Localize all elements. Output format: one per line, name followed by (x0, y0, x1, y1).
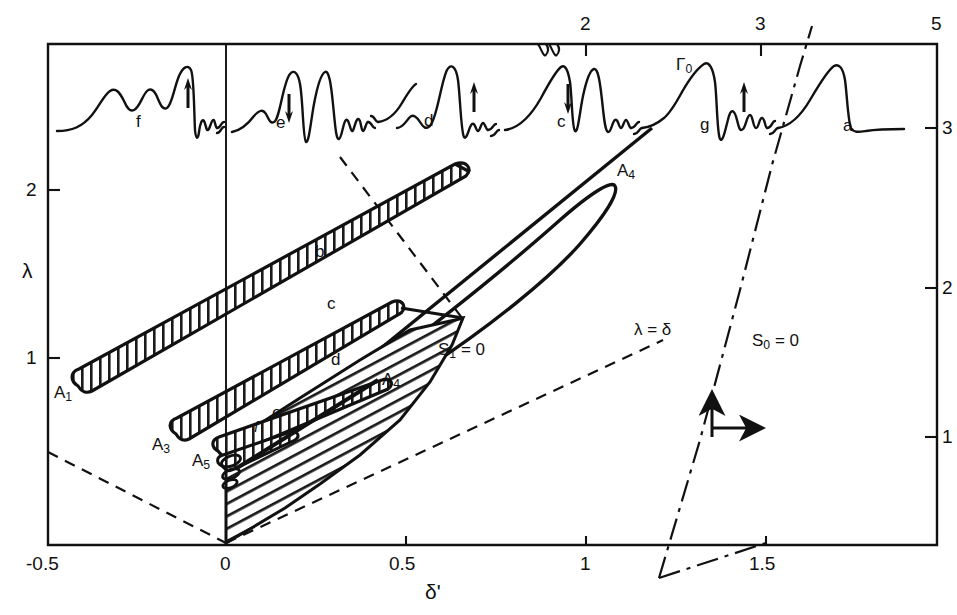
y-left-tick-label-1: 1 (26, 348, 37, 367)
axis-ticks (48, 44, 937, 545)
x-top-tick-label-5: 5 (931, 14, 942, 33)
inset-label-f: f (136, 113, 141, 130)
x-top-tick-label-3: 3 (755, 14, 766, 33)
axis-break-marker-top (538, 44, 559, 56)
inset-d-waveform (397, 66, 499, 137)
inset-e-waveform (232, 72, 416, 142)
curve-label-b: b (315, 243, 324, 260)
S0-direction-arrows (711, 404, 751, 437)
point-label-A4-upper: A4 (617, 162, 635, 182)
annotation-lambda-equals-delta: λ = δ (634, 321, 671, 338)
inset-f-arrow-up (184, 78, 192, 108)
annotation-S1-equals-0: S1 = 0 (438, 341, 485, 361)
inset-c-waveform (505, 66, 682, 134)
curve-label-f: f (254, 419, 258, 434)
y-right-tick-label-2: 2 (942, 278, 953, 297)
x-tick-label-1: 1 (580, 554, 591, 573)
point-label-A3: A3 (152, 436, 170, 456)
inset-g-waveform (682, 63, 778, 140)
inset-label-g: g (700, 116, 709, 133)
x-tick-label-0.5: 0.5 (389, 554, 415, 573)
point-label-A5: A5 (192, 452, 210, 472)
x-axis-title: δ' (425, 581, 441, 602)
inset-g-arrow-up (740, 82, 748, 112)
plot-frame (48, 44, 937, 545)
y-right-tick-label-1: 1 (942, 427, 953, 446)
inset-label-d: d (424, 112, 433, 129)
inset-label-c: c (557, 113, 566, 130)
x-tick-label-1.5: 1.5 (749, 554, 775, 573)
gamma-0-label: Γ0 (676, 56, 692, 76)
inset-label-a: a (843, 117, 852, 134)
curve-label-c: c (327, 295, 336, 312)
point-label-A1: A1 (54, 384, 72, 404)
y-left-tick-label-2: 2 (26, 180, 37, 199)
y-axis-title: λ (22, 260, 33, 281)
inset-d-arrow-up (470, 82, 478, 112)
S0-equals-0-line (659, 26, 812, 578)
inset-label-e: e (276, 114, 285, 131)
phase-diagram-figure (0, 0, 957, 615)
annotation-S0-equals-0: S0 = 0 (752, 332, 799, 352)
y-right-tick-label-3: 3 (942, 118, 953, 137)
curve-label-d: d (331, 351, 340, 368)
x-top-tick-label-2: 2 (580, 14, 591, 33)
inset-e-arrow-down (285, 94, 293, 123)
curve-label-e: e (272, 404, 281, 421)
x-tick-label--0.5: -0.5 (26, 554, 59, 573)
x-tick-label-0: 0 (220, 554, 231, 573)
point-label-A4-lower: A4 (382, 371, 400, 391)
